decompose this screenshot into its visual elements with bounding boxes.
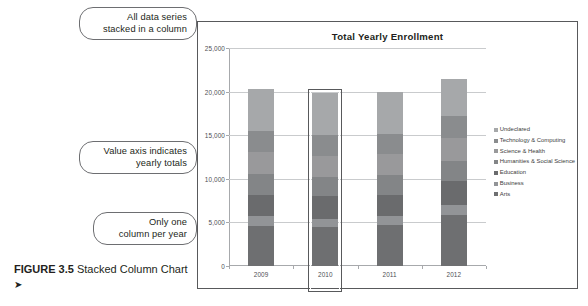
- y-tick-label-15000: 15,000: [205, 132, 225, 139]
- segment-2011-business[interactable]: [377, 216, 403, 225]
- segment-2012-humanities-social-science[interactable]: [441, 161, 467, 181]
- legend-label: Business: [500, 179, 524, 188]
- segment-2011-education[interactable]: [377, 195, 403, 217]
- legend-swatch-icon: [494, 182, 498, 186]
- callout-3-line-2: column per year: [119, 228, 187, 240]
- segment-2010-education[interactable]: [312, 196, 338, 219]
- x-axis-label-2011: 2011: [383, 271, 397, 278]
- segment-2011-arts[interactable]: [377, 225, 403, 266]
- segment-2012-technology-computing[interactable]: [441, 116, 467, 138]
- callout-3-line-1: Only one: [119, 216, 187, 228]
- legend-item-education[interactable]: Education: [494, 168, 575, 177]
- legend-swatch-icon: [494, 149, 498, 153]
- callout-1-line-2: stacked in a column: [103, 23, 187, 35]
- segment-2009-humanities-social-science[interactable]: [248, 174, 274, 194]
- column-2010[interactable]: [312, 93, 338, 266]
- plot-area: 05,00010,00015,00020,00025,0002009201020…: [229, 48, 486, 266]
- x-tick-mark-2: [358, 266, 359, 269]
- segment-2011-technology-computing[interactable]: [377, 134, 403, 154]
- segment-2011-science-health[interactable]: [377, 154, 403, 176]
- segment-2009-science-health[interactable]: [248, 152, 274, 175]
- column-2011[interactable]: [377, 92, 403, 266]
- legend-item-undeclared[interactable]: Undeclared: [494, 125, 575, 134]
- column-2009[interactable]: [248, 89, 274, 266]
- legend-label: Education: [500, 168, 526, 177]
- segment-2009-undeclared[interactable]: [248, 89, 274, 131]
- figure-number: FIGURE 3.5: [14, 263, 74, 275]
- chart-legend: UndeclaredTechnology & ComputingScience …: [494, 125, 575, 201]
- legend-item-business[interactable]: Business: [494, 179, 575, 188]
- segment-2012-education[interactable]: [441, 181, 467, 205]
- segment-2011-undeclared[interactable]: [377, 92, 403, 134]
- legend-label: Science & Health: [500, 147, 545, 156]
- callout-1-line-1: All data series: [103, 11, 187, 23]
- legend-label: Undeclared: [500, 125, 530, 134]
- x-tick-mark-1: [293, 266, 294, 269]
- segment-2010-humanities-social-science[interactable]: [312, 177, 338, 196]
- legend-item-technology-computing[interactable]: Technology & Computing: [494, 136, 575, 145]
- legend-item-arts[interactable]: Arts: [494, 190, 575, 199]
- legend-swatch-icon: [494, 128, 498, 132]
- figure-caption: FIGURE 3.5 Stacked Column Chart ➤: [14, 262, 196, 292]
- segment-2010-business[interactable]: [312, 219, 338, 227]
- legend-item-humanities-social-science[interactable]: Humanities & Social Science: [494, 157, 575, 166]
- segment-2009-education[interactable]: [248, 195, 274, 217]
- y-tick-label-0: 0: [221, 263, 225, 270]
- chart-frame: Total Yearly Enrollment 05,00010,00015,0…: [197, 21, 578, 289]
- x-tick-mark-end: [486, 266, 487, 269]
- segment-2010-science-health[interactable]: [312, 156, 338, 177]
- y-tick-label-5000: 5,000: [209, 219, 226, 226]
- legend-label: Technology & Computing: [500, 136, 566, 145]
- segment-2010-undeclared[interactable]: [312, 93, 338, 135]
- legend-swatch-icon: [494, 139, 498, 143]
- y-tick-mark-25000: [226, 48, 229, 49]
- legend-label: Arts: [500, 190, 510, 199]
- y-tick-label-10000: 10,000: [205, 175, 225, 182]
- chart-title: Total Yearly Enrollment: [198, 31, 577, 42]
- segment-2010-arts[interactable]: [312, 227, 338, 266]
- segment-2012-business[interactable]: [441, 205, 467, 215]
- legend-swatch-icon: [494, 160, 498, 164]
- callout-one-column-per-year: Only one column per year: [93, 212, 197, 245]
- callout-2-line-2: yearly totals: [104, 157, 187, 169]
- x-tick-mark-0: [229, 266, 230, 269]
- y-tick-mark-20000: [226, 92, 229, 93]
- column-2012[interactable]: [441, 79, 467, 266]
- callout-value-axis: Value axis indicates yearly totals: [79, 141, 197, 174]
- figure-title: Stacked Column Chart: [77, 263, 188, 275]
- legend-swatch-icon: [494, 192, 498, 196]
- segment-2009-arts[interactable]: [248, 226, 274, 266]
- x-tick-mark-3: [422, 266, 423, 269]
- segment-2012-arts[interactable]: [441, 215, 467, 266]
- y-tick-label-20000: 20,000: [205, 88, 225, 95]
- segment-2009-technology-computing[interactable]: [248, 131, 274, 152]
- segment-2009-business[interactable]: [248, 216, 274, 226]
- x-axis-label-2012: 2012: [447, 271, 462, 278]
- segment-2011-humanities-social-science[interactable]: [377, 175, 403, 194]
- y-tick-mark-5000: [226, 222, 229, 223]
- segment-2012-undeclared[interactable]: [441, 79, 467, 116]
- legend-label: Humanities & Social Science: [500, 157, 575, 166]
- figure-arrow-icon: ➤: [14, 279, 22, 290]
- y-tick-label-25000: 25,000: [205, 45, 225, 52]
- callout-2-line-1: Value axis indicates: [104, 145, 187, 157]
- legend-swatch-icon: [494, 171, 498, 175]
- value-axis: [229, 48, 230, 266]
- x-axis-label-2009: 2009: [254, 271, 269, 278]
- y-tick-mark-10000: [226, 179, 229, 180]
- segment-2010-technology-computing[interactable]: [312, 135, 338, 156]
- y-tick-mark-15000: [226, 135, 229, 136]
- callout-all-data-series: All data series stacked in a column: [79, 7, 197, 40]
- segment-2012-science-health[interactable]: [441, 138, 467, 162]
- x-axis-label-2010: 2010: [318, 271, 333, 278]
- legend-item-science-health[interactable]: Science & Health: [494, 147, 575, 156]
- gridline-25000: [229, 48, 486, 49]
